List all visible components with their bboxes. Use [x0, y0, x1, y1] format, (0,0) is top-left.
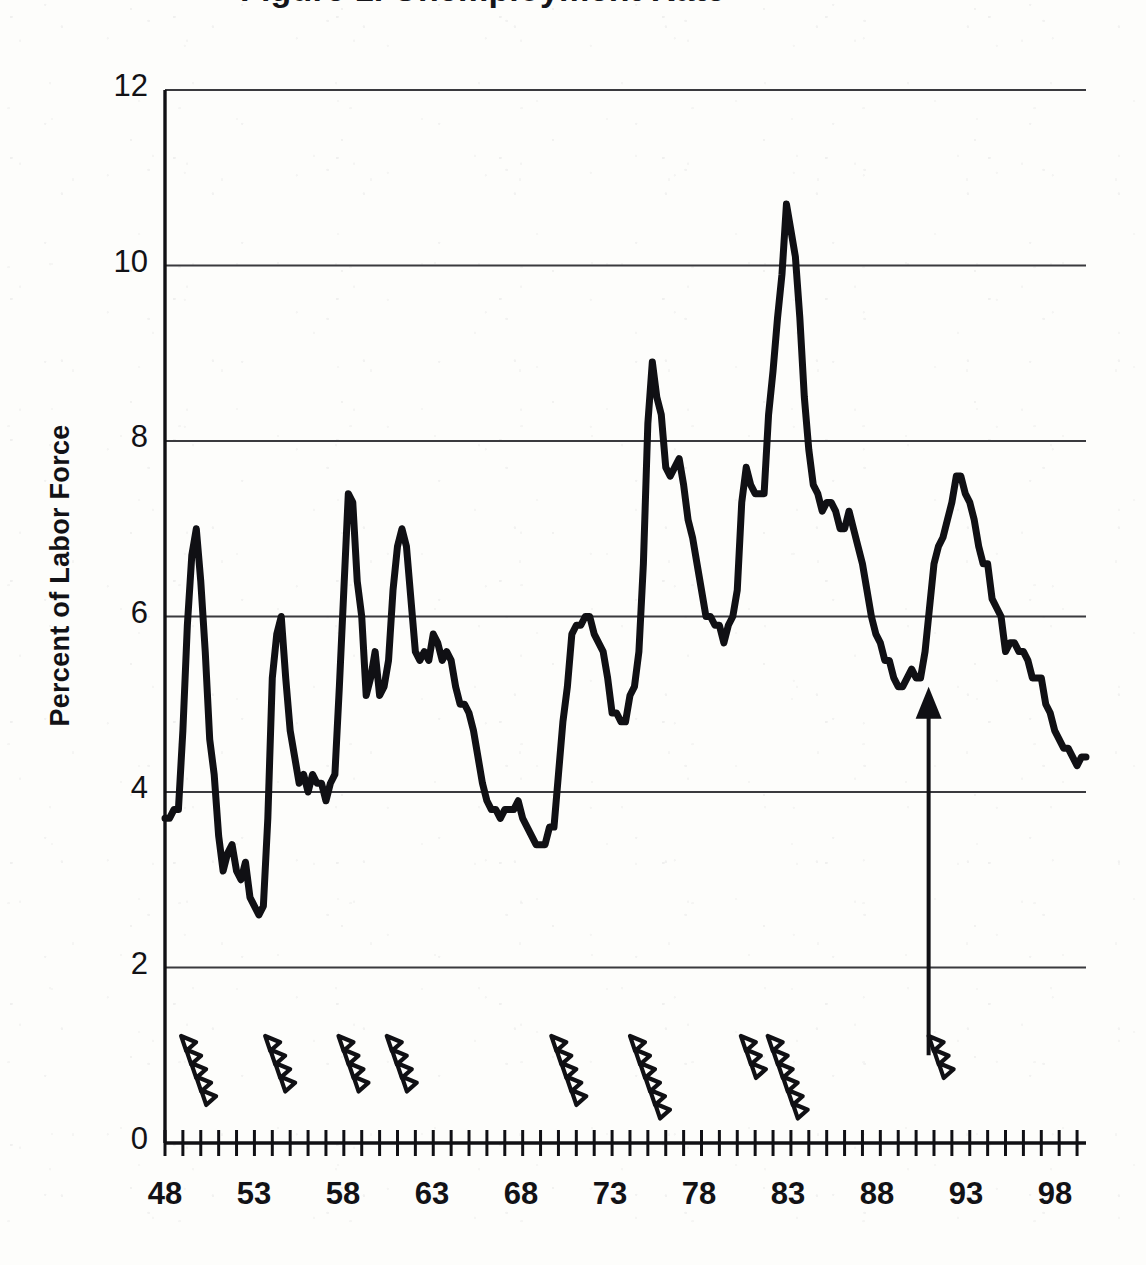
recession-marker	[265, 1036, 295, 1092]
unemployment-rate-chart: Percent of Labor Force 12 10 8 6 4 2 0 4…	[0, 0, 1146, 1265]
recession-markers	[181, 1036, 954, 1119]
recession-marker	[630, 1036, 670, 1119]
recession-marker	[929, 1036, 954, 1078]
recession-marker	[338, 1036, 368, 1092]
recession-marker	[551, 1036, 586, 1105]
recession-marker	[181, 1036, 216, 1105]
recession-marker	[741, 1036, 766, 1078]
recession-marker	[768, 1036, 808, 1119]
plot-canvas	[0, 0, 1146, 1265]
annotations	[916, 687, 942, 1056]
series-line	[165, 204, 1086, 915]
recession-marker	[387, 1036, 417, 1092]
